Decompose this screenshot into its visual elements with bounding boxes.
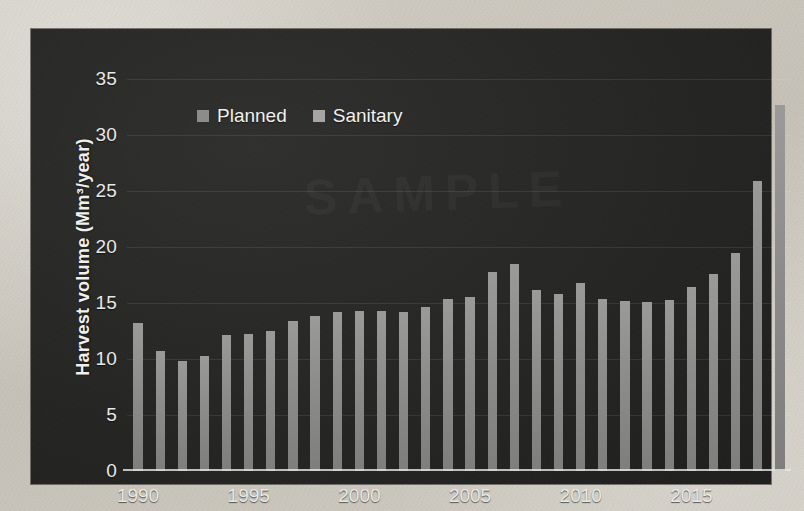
bar-planned-1990[interactable] <box>133 323 142 471</box>
x-axis-line <box>123 469 791 471</box>
bar-planned-2001[interactable] <box>377 311 386 471</box>
x-tick-label: 1990 <box>117 485 159 507</box>
y-tick-label: 5 <box>106 404 117 426</box>
bar-planned-1996[interactable] <box>266 331 275 471</box>
plot-area: 05101520253035 199019952000200520102015 <box>127 79 791 471</box>
bar-planned-2004[interactable] <box>443 299 452 471</box>
bar-planned-2011[interactable] <box>598 299 607 471</box>
y-axis-title: Harvest volume (Mm³/year) <box>73 138 94 376</box>
bar-planned-2007[interactable] <box>510 264 519 471</box>
y-tick-label: 20 <box>95 236 117 258</box>
y-tick-label: 0 <box>106 460 117 482</box>
y-tick-label: 10 <box>95 348 117 370</box>
bar-planned-1993[interactable] <box>200 356 209 471</box>
x-tick-label: 2000 <box>338 485 380 507</box>
x-tick-label: 2015 <box>670 485 712 507</box>
y-tick-label: 25 <box>95 180 117 202</box>
bar-planned-1999[interactable] <box>333 312 342 471</box>
bar-planned-2008[interactable] <box>532 290 541 471</box>
bar-planned-2010[interactable] <box>576 283 585 471</box>
bar-planned-1997[interactable] <box>288 321 297 471</box>
x-tick-label: 2010 <box>560 485 602 507</box>
bar-planned-2009[interactable] <box>554 294 563 471</box>
y-tick-label: 30 <box>95 124 117 146</box>
bar-planned-1992[interactable] <box>178 361 187 471</box>
x-tick-label: 1995 <box>228 485 270 507</box>
page-background: SAMPLE Harvest volume (Mm³/year) Planned… <box>0 0 804 511</box>
gridline <box>127 79 791 80</box>
gridline <box>127 191 791 192</box>
bar-planned-2019[interactable] <box>775 105 784 471</box>
y-tick-label: 15 <box>95 292 117 314</box>
gridline <box>127 247 791 248</box>
bar-planned-2012[interactable] <box>620 301 629 471</box>
gridline <box>127 135 791 136</box>
bar-planned-2002[interactable] <box>399 312 408 471</box>
bar-planned-2005[interactable] <box>465 297 474 471</box>
bar-planned-2003[interactable] <box>421 307 430 471</box>
bar-planned-1994[interactable] <box>222 335 231 471</box>
bar-planned-2015[interactable] <box>687 287 696 471</box>
bar-planned-1998[interactable] <box>310 316 319 471</box>
chart-panel: SAMPLE Harvest volume (Mm³/year) Planned… <box>31 29 771 484</box>
bar-planned-2016[interactable] <box>709 274 718 471</box>
bar-planned-1991[interactable] <box>156 351 165 471</box>
bar-planned-1995[interactable] <box>244 334 253 471</box>
y-tick-label: 35 <box>95 68 117 90</box>
bar-planned-2000[interactable] <box>355 311 364 471</box>
bar-planned-2018[interactable] <box>753 181 762 471</box>
bar-planned-2017[interactable] <box>731 253 740 471</box>
bar-planned-2013[interactable] <box>642 302 651 471</box>
bar-planned-2014[interactable] <box>665 300 674 471</box>
bar-planned-2006[interactable] <box>488 272 497 471</box>
x-tick-label: 2005 <box>449 485 491 507</box>
